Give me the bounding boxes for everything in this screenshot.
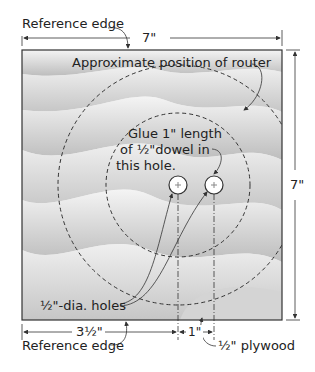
height-dimension: 7" <box>288 178 306 192</box>
reference-edge-bottom-label: Reference edge <box>22 338 124 353</box>
plywood-label: ½" plywood <box>218 338 295 353</box>
hole-offset-dimension: 3½" <box>74 325 105 339</box>
width-dimension: 7" <box>140 31 158 45</box>
plywood-board <box>22 50 282 320</box>
hole-1 <box>169 176 187 194</box>
hole-spacing-dimension: 1" <box>186 325 203 339</box>
holes-label: ½"-dia. holes <box>40 298 126 313</box>
glue-note-line3: this hole. <box>116 158 176 173</box>
glue-note-line1: Glue 1" length <box>128 126 222 141</box>
glue-note-line2: of ½"dowel in <box>120 142 210 157</box>
reference-edge-top-label: Reference edge <box>22 16 124 31</box>
hole-2 <box>205 176 223 194</box>
router-position-label: Approximate position of router <box>72 55 271 70</box>
